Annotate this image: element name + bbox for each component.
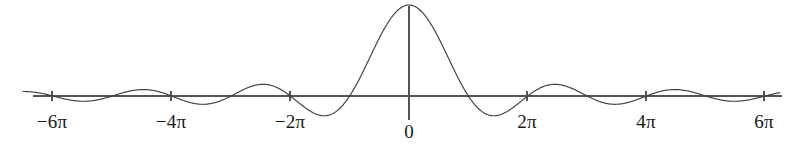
x-tick-label-minus-2pi: −2π bbox=[275, 112, 305, 131]
x-tick-label-zero: 0 bbox=[404, 122, 414, 141]
sinc-plot-figure: −6π−4π−2π02π4π6π bbox=[0, 0, 802, 151]
plot-canvas bbox=[0, 0, 802, 151]
sinc-curve bbox=[23, 5, 780, 116]
x-tick-label-4pi: 4π bbox=[636, 112, 656, 131]
x-tick-label-2pi: 2π bbox=[517, 112, 537, 131]
x-tick-label-minus-6pi: −6π bbox=[37, 112, 67, 131]
axes-group bbox=[33, 6, 782, 120]
x-tick-label-6pi: 6π bbox=[754, 112, 774, 131]
x-tick-label-minus-4pi: −4π bbox=[156, 112, 186, 131]
